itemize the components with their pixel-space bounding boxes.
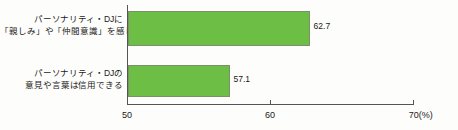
bar-value-label-1: 57.1 <box>234 74 251 84</box>
x-tick-mark-1 <box>270 100 271 105</box>
x-tick-label-2: 70(%) <box>409 110 433 120</box>
y-axis-line <box>127 5 128 104</box>
x-tick-mark-0 <box>127 100 128 105</box>
bar-1 <box>128 65 230 97</box>
x-tick-label-0: 50 <box>122 110 132 120</box>
bar-0 <box>128 11 310 46</box>
bar-value-label-0: 62.7 <box>314 21 331 31</box>
plot-area: 62.7 57.1 50 60 70(%) <box>0 0 458 130</box>
x-tick-label-1: 60 <box>265 110 275 120</box>
horizontal-bar-chart: パーソナリティ・DJに 「親しみ」や「仲間意識」を感じる パーソナリティ・DJの… <box>0 0 458 130</box>
x-tick-mark-2 <box>413 100 414 105</box>
